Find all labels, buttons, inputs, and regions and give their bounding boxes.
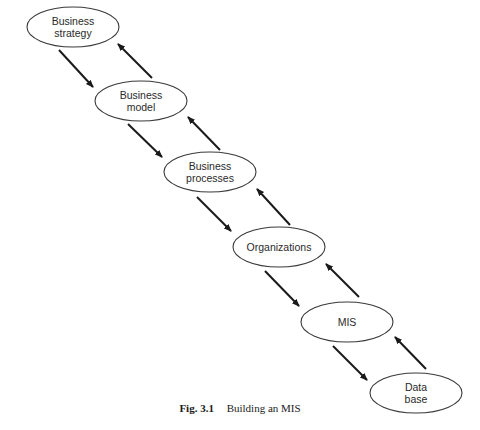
arrow-up-data-base-to-mis [395,337,426,369]
node-label: Business [52,15,95,27]
node-business-processes: Businessprocesses [164,152,256,192]
figure-number: Fig. 3.1 [179,402,214,414]
mis-building-diagram: BusinessstrategyBusinessmodelBusinesspro… [0,0,480,430]
node-label: model [127,101,156,113]
figure-title: Building an MIS [227,402,301,414]
node-label: Business [189,160,232,172]
node-label: MIS [338,316,357,328]
arrow-up-business-model-to-business-strategy [118,44,152,78]
arrow-up-mis-to-organizations [326,264,359,297]
node-organizations: Organizations [233,227,325,267]
node-label: Business [120,89,163,101]
arrow-down-business-processes-to-organizations [197,197,231,231]
node-mis: MIS [301,302,393,342]
arrow-down-organizations-to-mis [265,271,299,306]
arrow-up-business-processes-to-business-model [188,117,220,150]
node-label: Organizations [247,241,312,253]
arrow-down-mis-to-data-base [333,346,367,380]
figure-caption: Fig. 3.1 Building an MIS [0,402,480,414]
node-label: processes [186,172,234,184]
nodes-layer: BusinessstrategyBusinessmodelBusinesspro… [27,7,462,413]
node-business-strategy: Businessstrategy [27,7,119,47]
node-business-model: Businessmodel [95,81,187,121]
arrow-up-organizations-to-business-processes [257,189,290,225]
node-label: strategy [54,27,92,39]
arrow-down-business-model-to-business-processes [128,124,162,157]
node-label: Data [405,381,427,393]
arrow-down-business-strategy-to-business-model [59,50,93,87]
